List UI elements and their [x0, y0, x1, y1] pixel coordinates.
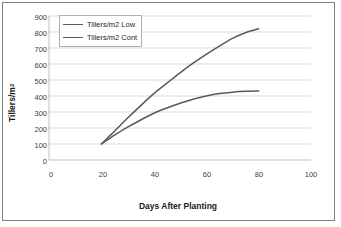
legend-label-low: Tillers/m2 Low — [87, 20, 135, 29]
legend-item-low[interactable]: Tillers/m2 Low — [63, 18, 137, 31]
legend-item-cont[interactable]: Tillers/m2 Cont — [63, 31, 137, 44]
series-line-low — [101, 91, 258, 144]
chart-legend: Tillers/m2 Low Tillers/m2 Cont — [59, 15, 142, 47]
legend-line-swatch-icon — [63, 37, 83, 38]
chart-plot-area: Tillers/m2 900 800 700 600 500 400 300 2… — [3, 3, 334, 220]
x-axis-title: Days After Planting — [63, 201, 293, 211]
legend-line-swatch-icon — [63, 24, 83, 25]
chart-frame: Tillers/m2 900 800 700 600 500 400 300 2… — [2, 2, 335, 221]
chart-canvas — [3, 3, 336, 222]
legend-label-cont: Tillers/m2 Cont — [87, 33, 137, 42]
